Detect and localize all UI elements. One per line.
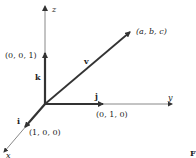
j-point-label: (0, 1, 0) — [96, 110, 128, 119]
j-label: j — [94, 91, 98, 101]
v-label: v — [83, 56, 89, 66]
y-axis-label: y — [167, 93, 173, 102]
i-vector — [25, 104, 45, 127]
v-point-label: (a, b, c) — [136, 27, 167, 36]
k-label: k — [35, 72, 41, 82]
k-point-label: (0, 0, 1) — [5, 51, 37, 60]
caption-fragment: F — [190, 148, 196, 158]
i-point-label: (1, 0, 0) — [29, 128, 61, 137]
z-axis-label: z — [51, 5, 57, 14]
x-axis-label: x — [6, 151, 11, 158]
v-vector — [45, 32, 130, 104]
i-label: i — [17, 116, 20, 126]
vector-diagram: z y x (0, 0, 1) k j (0, 1, 0) i (1, 0, 0… — [0, 0, 196, 158]
